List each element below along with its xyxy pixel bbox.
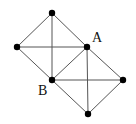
graph-canvas <box>0 0 136 124</box>
edge-A-right <box>87 47 123 80</box>
edge-top-A <box>52 13 87 47</box>
vertex-bottom <box>85 111 91 117</box>
vertex-right <box>120 77 126 83</box>
edge-top-left <box>17 13 52 47</box>
edge-right-bottom <box>88 80 123 114</box>
vertex-label-a: A <box>92 31 102 45</box>
edge-A-B <box>52 47 87 80</box>
vertex-label-b: B <box>38 84 47 98</box>
edge-left-B <box>17 47 52 80</box>
edge-bottom-B <box>52 80 88 114</box>
vertex-top <box>49 10 55 16</box>
vertex-B <box>49 77 55 83</box>
vertex-A <box>84 44 90 50</box>
vertex-left <box>14 44 20 50</box>
graph-diagram: A B <box>0 0 136 124</box>
